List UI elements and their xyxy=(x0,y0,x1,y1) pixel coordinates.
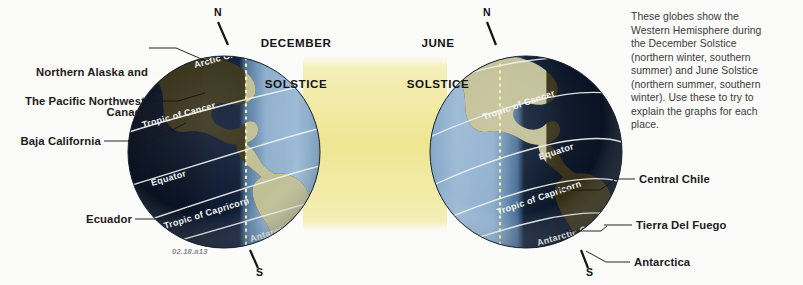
december-title-line1: DECEMBER xyxy=(236,36,356,50)
june-north-pole-label: N xyxy=(483,6,491,18)
figure-caption: These globes show the Western Hemisphere… xyxy=(631,10,799,132)
figure-root: Arctic C. Tropic of Cancer Equator Tropi… xyxy=(0,0,803,285)
callout-antarctica: Antarctica xyxy=(634,256,690,269)
december-north-pole-label: N xyxy=(214,6,222,18)
callout-northern-alaska-and-canada: Northern Alaska and Canada xyxy=(0,39,148,146)
globe-title-june: JUNE SOLSTICE xyxy=(390,9,486,118)
caption-line-2: Western Hemisphere during xyxy=(631,24,799,38)
caption-line-4: (northern winter, southern xyxy=(631,51,799,65)
december-title-line2: SOLSTICE xyxy=(236,77,356,91)
caption-line-3: the December Solstice xyxy=(631,37,799,51)
caption-line-5: summer) and June Solstice xyxy=(631,64,799,78)
callout-central-chile: Central Chile xyxy=(639,173,710,186)
caption-line-9: place. xyxy=(631,118,799,132)
figure-id-label: 02.18.a13 xyxy=(172,248,208,257)
globe-title-december: DECEMBER SOLSTICE xyxy=(236,9,356,118)
callout-baja-california: Baja California xyxy=(0,135,101,148)
caption-line-7: winter). Use these to try to xyxy=(631,91,799,105)
caption-line-1: These globes show the xyxy=(631,10,799,24)
callout-the-pacific-northwest: The Pacific Northwest xyxy=(0,95,145,108)
june-south-pole-label: S xyxy=(586,266,593,278)
june-title-line2: SOLSTICE xyxy=(390,77,486,91)
caption-line-8: explain the graphs for each xyxy=(631,105,799,119)
callout-northern-alaska-line1: Northern Alaska and xyxy=(0,66,148,79)
callout-tierra-del-fuego: Tierra Del Fuego xyxy=(636,219,727,232)
callout-ecuador: Ecuador xyxy=(0,213,132,226)
december-south-pole-label: S xyxy=(256,266,263,278)
caption-line-6: (northern summer, southern xyxy=(631,78,799,92)
june-title-line1: JUNE xyxy=(390,36,486,50)
